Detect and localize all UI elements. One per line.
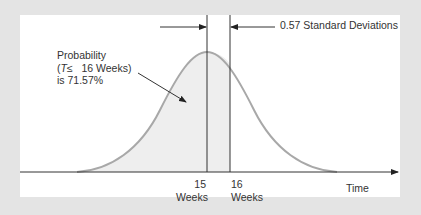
std-dev-label: 0.57 Standard Deviations	[280, 19, 398, 32]
probability-label-line3: is 71.57%	[57, 74, 131, 87]
tick-label-15-weeks: 15 Weeks	[176, 178, 206, 203]
probability-label: Probability (T≤ 16 Weeks) is 71.57%	[57, 49, 131, 87]
time-axis-label: Time	[346, 182, 369, 195]
probability-label-line1: Probability	[57, 49, 131, 62]
tick-label-16-weeks: 16 Weeks	[231, 178, 263, 203]
probability-label-line2: (T≤ 16 Weeks)	[57, 62, 131, 75]
